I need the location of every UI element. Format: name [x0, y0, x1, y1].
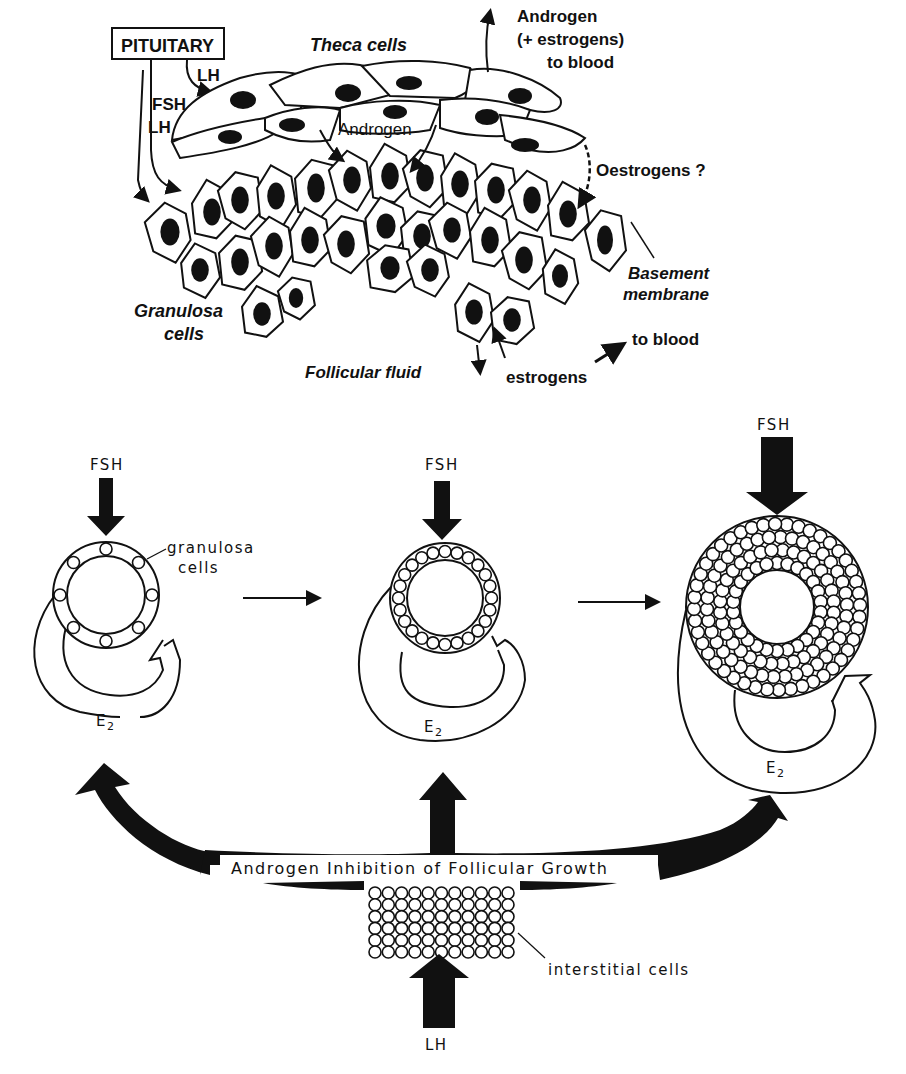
cell-nucleus — [503, 308, 521, 331]
follicle-stage-1: FSH E2 granulosa cells — [34, 456, 254, 733]
cell-nucleus — [443, 217, 461, 242]
interstitial-cell — [422, 887, 434, 899]
granulosa-cell — [68, 557, 80, 569]
interstitial-cell — [449, 911, 461, 923]
e2-inner-loop-stage-3 — [734, 690, 835, 752]
androgen-blood-line-3: to blood — [547, 53, 614, 72]
fsh-label-stage-3: FSH — [757, 416, 791, 434]
interstitial-cell — [436, 934, 448, 946]
granulosa-cell — [484, 580, 496, 592]
interstitial-cell — [436, 911, 448, 923]
interstitial-cell — [449, 934, 461, 946]
granulosa-cell — [394, 604, 406, 616]
interstitial-cell — [409, 946, 421, 958]
granulosa-cell — [688, 591, 701, 604]
granulosa-cell — [760, 558, 773, 571]
granulosa-label-line-1: granulosa — [167, 539, 255, 557]
bottom-panel: FSH E2 granulosa cells FSH E2 — [34, 416, 875, 1054]
cell-nucleus — [267, 183, 285, 210]
interstitial-cell — [369, 911, 381, 923]
cell-nucleus — [337, 231, 355, 258]
granulosa-cell — [416, 552, 428, 564]
granulosa-cell — [761, 683, 774, 696]
interstitial-cell — [422, 911, 434, 923]
interstitial-cell — [475, 946, 487, 958]
interstitial-cell — [502, 934, 514, 946]
cell-nucleus — [231, 249, 249, 276]
basement-pointer — [631, 222, 654, 258]
interstitial-cell — [369, 946, 381, 958]
interstitial-cell — [502, 946, 514, 958]
cell-nucleus — [421, 258, 439, 281]
follicle-inner-stage-2 — [407, 560, 483, 636]
androgen-to-blood-arrow — [486, 12, 490, 72]
interstitial-cell — [462, 922, 474, 934]
cell-nucleus — [343, 167, 361, 194]
granulosa-cell — [100, 635, 112, 647]
granulosa-label-line-2: cells — [178, 559, 219, 577]
interstitial-label: interstitial cells — [548, 961, 690, 979]
interstitial-cell — [369, 922, 381, 934]
e2-label-stage-3: E2 — [766, 759, 785, 780]
interstitial-cell — [396, 899, 408, 911]
interstitial-cell — [382, 934, 394, 946]
granulosa-cell — [133, 622, 145, 634]
interstitial-cell — [422, 899, 434, 911]
interstitial-cells-grid — [369, 887, 514, 958]
interstitial-cell — [475, 899, 487, 911]
interstitial-cell — [436, 899, 448, 911]
interstitial-cell — [382, 899, 394, 911]
fsh-arrow-stage-3 — [746, 437, 808, 515]
oestrogens-label: Oestrogens ? — [596, 161, 706, 180]
interstitial-pointer — [518, 933, 545, 958]
e2-label-stage-1: E2 — [96, 712, 115, 733]
granulosa-cell — [146, 589, 158, 601]
interstitial-cell — [382, 887, 394, 899]
follicle-inner-stage-1 — [67, 556, 145, 634]
cell-nucleus — [265, 233, 283, 260]
granulosa-cell — [427, 637, 439, 649]
lh-label: LH — [425, 1036, 448, 1054]
fsh-arrow-stage-1 — [87, 478, 125, 536]
granulosa-pointer — [147, 549, 166, 559]
estrogens-label: estrogens — [506, 368, 587, 387]
granulosa-cell — [133, 557, 145, 569]
interstitial-cell — [382, 911, 394, 923]
interstitial-cell — [489, 922, 501, 934]
granulosa-cell — [462, 632, 474, 644]
interstitial-cell — [369, 934, 381, 946]
interstitial-cell — [382, 922, 394, 934]
lh-arrow — [409, 954, 469, 1028]
interstitial-cell — [462, 899, 474, 911]
granulosa-cell — [68, 622, 80, 634]
granulosa-cell — [769, 518, 782, 531]
interstitial-cell — [396, 946, 408, 958]
interstitial-cell — [502, 887, 514, 899]
granulosa-cell — [689, 614, 702, 627]
follicle-inner-stage-3 — [740, 570, 814, 644]
cell-nucleus — [307, 174, 325, 203]
fsh-arrow-stage-2 — [422, 481, 462, 540]
follicle-stage-2: FSH E2 — [359, 456, 525, 741]
interstitial-cell — [475, 887, 487, 899]
interstitial-cell — [409, 922, 421, 934]
cell-nucleus — [487, 177, 505, 204]
interstitial-cell — [489, 887, 501, 899]
androgen-inner-label: Androgen — [338, 120, 412, 139]
cell-nucleus — [416, 165, 434, 192]
cell-nucleus — [231, 187, 249, 214]
cell-nucleus — [289, 288, 303, 308]
cell-nucleus — [191, 258, 209, 281]
granulosa-cell — [484, 604, 496, 616]
interstitial-cell — [489, 946, 501, 958]
estrogens-down-arrow — [477, 345, 480, 372]
fsh-label-stage-2: FSH — [425, 456, 459, 474]
granulosa-cell — [765, 544, 778, 557]
interstitial-cell — [369, 887, 381, 899]
granulosa-cell — [479, 569, 491, 581]
basement-line-1: Basement — [628, 264, 711, 283]
cell-nucleus — [597, 226, 613, 255]
interstitial-cell — [409, 911, 421, 923]
cell-nucleus — [523, 187, 541, 214]
e2-outer-loop-stage-1b — [140, 640, 180, 717]
